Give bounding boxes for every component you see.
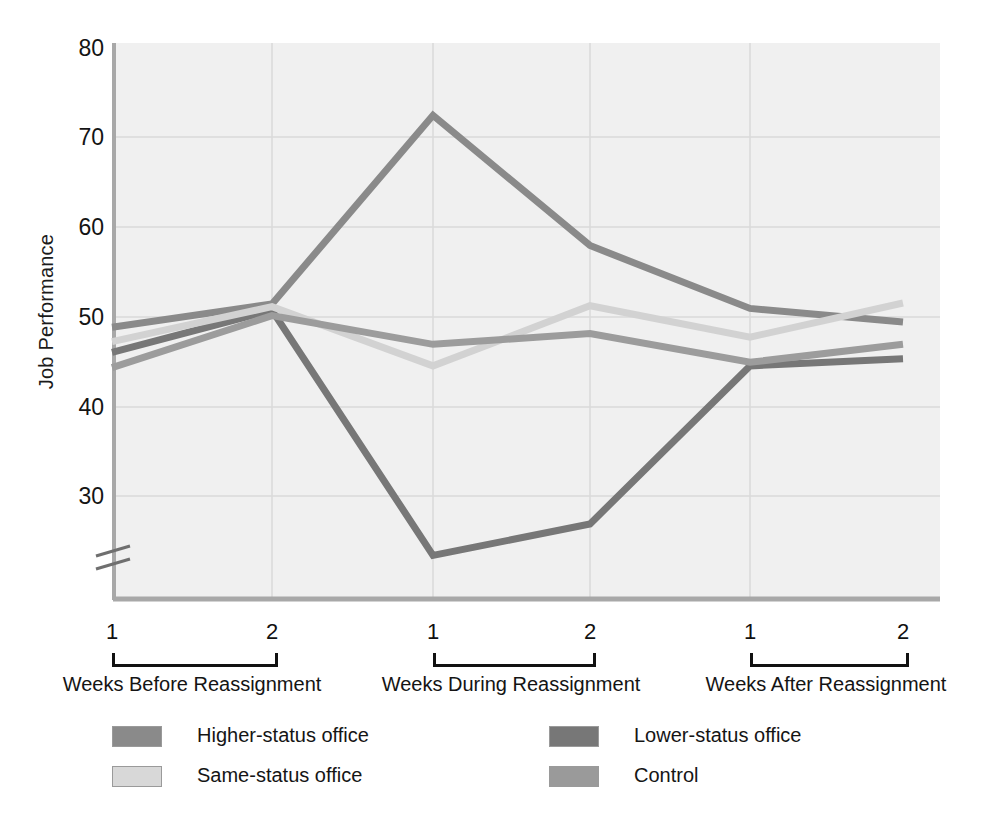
legend-swatch-same-status-office — [112, 766, 162, 787]
x-tick-after-1: 1 — [744, 619, 756, 645]
x-tick-before-1: 1 — [106, 619, 118, 645]
x-tick-during-1: 1 — [427, 619, 439, 645]
group-label-during: Weeks During Reassignment — [382, 673, 641, 696]
group-label-before: Weeks Before Reassignment — [63, 673, 322, 696]
x-tick-after-2: 2 — [897, 619, 909, 645]
group-bracket-during — [433, 653, 596, 667]
chart-figure: Job Performance 80 70 60 50 40 30 — [0, 0, 985, 816]
legend-label-higher-status-office: Higher-status office — [197, 724, 369, 747]
legend-swatch-lower-status-office — [549, 726, 599, 747]
legend-swatch-control — [549, 766, 599, 787]
legend-swatch-higher-status-office — [112, 726, 162, 747]
x-tick-during-2: 2 — [584, 619, 596, 645]
legend-label-control: Control — [634, 764, 698, 787]
legend-label-same-status-office: Same-status office — [197, 764, 362, 787]
group-bracket-before — [112, 653, 278, 667]
group-bracket-after — [750, 653, 909, 667]
legend-label-lower-status-office: Lower-status office — [634, 724, 802, 747]
group-label-after: Weeks After Reassignment — [706, 673, 947, 696]
x-tick-before-2: 2 — [266, 619, 278, 645]
